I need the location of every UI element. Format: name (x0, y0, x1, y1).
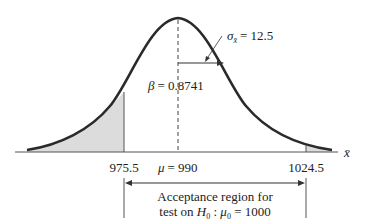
sigma-pointer (206, 36, 222, 60)
tick-mu-label: μ= 990 (157, 160, 198, 175)
sigma-label: σx̄= 12.5 (227, 28, 273, 45)
normal-curve-diagram: σx̄= 12.5 β= 0.8741 x̄ 975.5 μ= 990 1024… (0, 0, 368, 220)
region-arrow-right-head (298, 180, 305, 186)
shaded-left-tail (27, 92, 124, 152)
tick-right-label: 1024.5 (288, 160, 324, 175)
sigma-pointer-head (205, 56, 210, 62)
beta-label: β= 0.8741 (147, 78, 204, 93)
tick-left-label: 975.5 (109, 160, 138, 175)
region-caption-line1: Acceptance region for (157, 189, 273, 204)
region-caption-line2: test on H0 : μ0 = 1000 (159, 204, 270, 220)
region-arrow-left-head (125, 180, 132, 186)
axis-variable-label: x̄ (343, 145, 350, 160)
